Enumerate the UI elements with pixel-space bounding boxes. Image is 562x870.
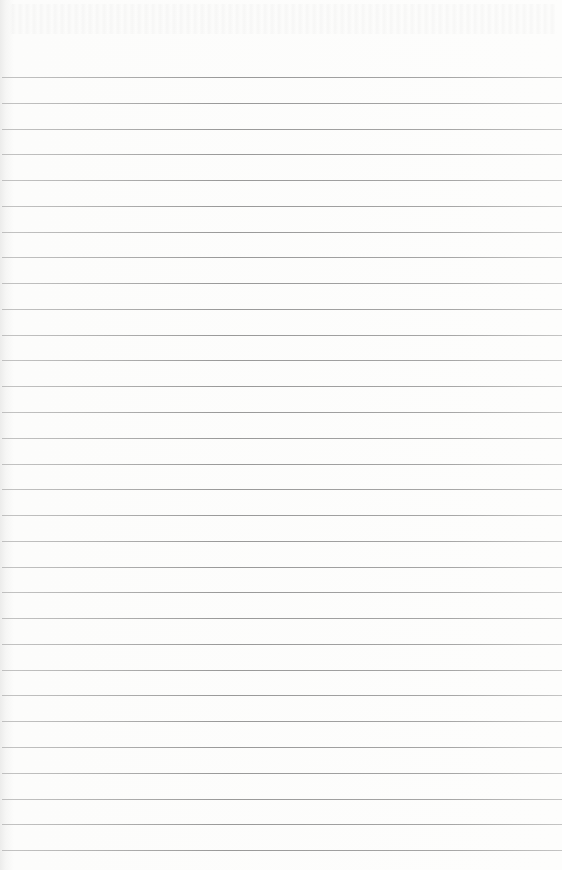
ruled-line xyxy=(2,412,562,413)
ink-bleed-through xyxy=(10,4,555,34)
ruled-line xyxy=(2,773,562,774)
ruled-line xyxy=(2,180,562,181)
ruled-line xyxy=(2,386,562,387)
ruled-line xyxy=(2,309,562,310)
ruled-line xyxy=(2,335,562,336)
ruled-line xyxy=(2,257,562,258)
ruled-line xyxy=(2,618,562,619)
ruled-line xyxy=(2,515,562,516)
ruled-line xyxy=(2,77,562,78)
ruled-line xyxy=(2,154,562,155)
lined-paper-sheet xyxy=(0,0,562,870)
ruled-line xyxy=(2,824,562,825)
ruled-line xyxy=(2,129,562,130)
ruled-line xyxy=(2,747,562,748)
ruled-line xyxy=(2,850,562,851)
ruled-line xyxy=(2,644,562,645)
ruled-line xyxy=(2,695,562,696)
ruled-line xyxy=(2,103,562,104)
ruled-line xyxy=(2,670,562,671)
ruled-line xyxy=(2,541,562,542)
ruled-line xyxy=(2,464,562,465)
ruled-line xyxy=(2,592,562,593)
ruled-line xyxy=(2,721,562,722)
ruled-line xyxy=(2,360,562,361)
ruled-line xyxy=(2,567,562,568)
ruled-line xyxy=(2,232,562,233)
ruled-line xyxy=(2,206,562,207)
ruled-line xyxy=(2,438,562,439)
ruled-line xyxy=(2,489,562,490)
ruled-line xyxy=(2,799,562,800)
ruled-line xyxy=(2,283,562,284)
